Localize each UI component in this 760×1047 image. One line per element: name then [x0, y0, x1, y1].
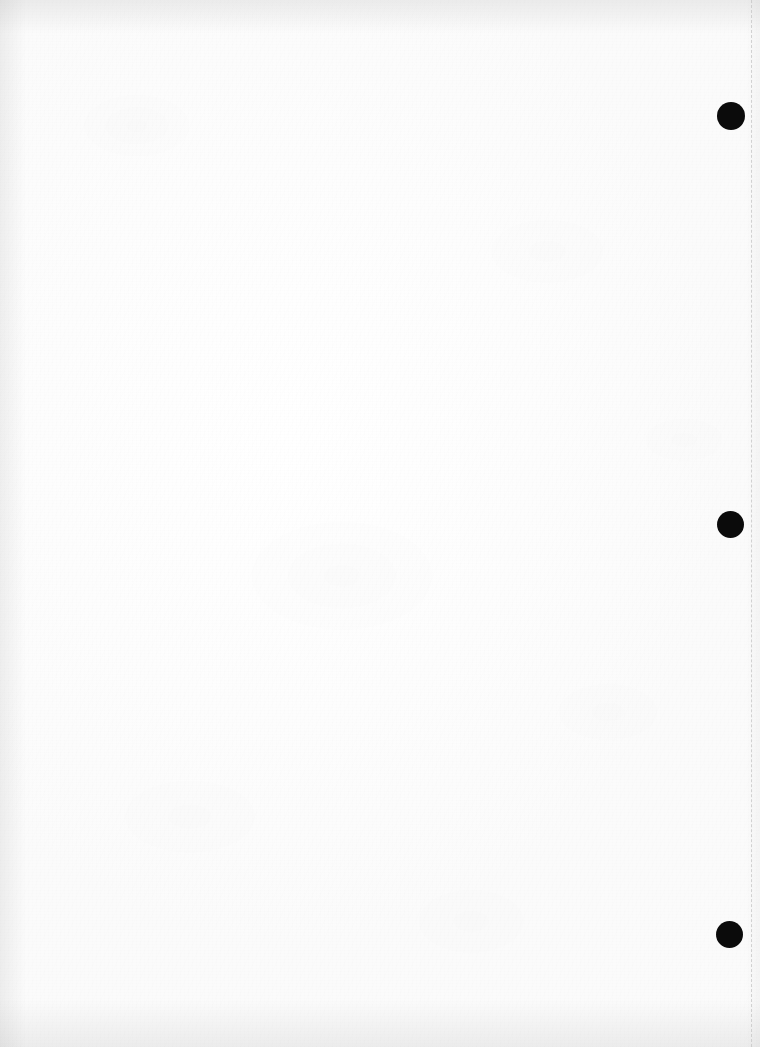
paper-surface [0, 0, 760, 1047]
punch-hole-mark-top [717, 102, 745, 130]
punch-hole-mark-middle [717, 511, 744, 538]
punch-hole-mark-bottom [716, 921, 743, 948]
scanned-page [0, 0, 760, 1047]
